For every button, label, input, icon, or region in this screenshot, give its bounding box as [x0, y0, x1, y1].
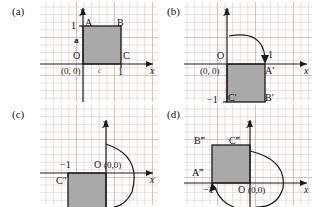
origin-coords-b: (0, 0)	[200, 67, 220, 76]
vertex-label-A-prime: A′	[265, 66, 274, 76]
panel-a: (a) y x A B C 1 1 O (0, 0) a	[0, 0, 159, 103]
panel-d: (d) y x B‴ C‴ A‴ −1	[159, 104, 318, 207]
panel-c-tag: (c)	[12, 108, 24, 120]
rotation-figure: (a) y x A B C 1 1 O (0, 0) a	[0, 0, 318, 207]
panel-b-graphics	[159, 0, 318, 103]
origin-label-c: O	[94, 160, 101, 170]
x-axis-label-c: x	[150, 175, 154, 185]
x-tick-label-1-a: 1	[118, 67, 123, 77]
vertex-label-A: A	[85, 18, 92, 28]
y-axis-label-c: y	[103, 118, 107, 128]
vertex-label-B: B	[117, 18, 124, 28]
x-axis-label-d: x	[304, 185, 308, 195]
y-axis-label-a: y	[80, 6, 84, 16]
rotation-arc-b	[229, 35, 265, 58]
rotation-arc-d-tail	[215, 188, 234, 207]
unit-square-a	[83, 26, 121, 64]
origin-label-d: O	[238, 185, 245, 195]
vertex-label-C: C	[123, 51, 130, 61]
origin-label-a: O	[73, 51, 80, 61]
y-axis-label-b: y	[224, 6, 228, 16]
vertex-label-B-prime: B′	[265, 93, 274, 103]
rotation-arc-c	[106, 144, 134, 207]
unit-square-d	[212, 145, 250, 183]
vector-label-c: c	[98, 67, 102, 75]
vector-label-a: a	[74, 36, 79, 45]
y-tick-label-neg1-b: −1	[207, 95, 218, 105]
vertex-label-C-double-prime: C″	[56, 176, 67, 186]
origin-coords-a: (0, 0)	[61, 67, 81, 76]
vertex-label-C-prime: C′	[228, 93, 237, 103]
panel-b: (b) y x O (0, 0) 1 −1 A′	[159, 0, 318, 103]
y-axis-label-d: y	[247, 118, 251, 128]
origin-coords-d: (0,0)	[248, 186, 265, 195]
y-tick-label-1-a: 1	[71, 21, 76, 31]
panel-c: (c) y x −1 O (0,0) C″	[0, 104, 159, 207]
x-tick-label-neg1-c: −1	[60, 160, 71, 170]
x-tick-label-neg1-d: −1	[203, 185, 214, 195]
x-axis-label-b: x	[304, 66, 308, 76]
vertex-label-B-triple-prime: B‴	[194, 136, 205, 146]
vertex-label-C-triple-prime: C‴	[229, 136, 240, 146]
x-axis-label-a: x	[150, 66, 154, 76]
origin-coords-c: (0,0)	[104, 161, 121, 170]
vertex-label-A-triple-prime: A‴	[192, 168, 203, 178]
origin-label-b: O	[217, 51, 224, 61]
x-tick-label-1-b: 1	[268, 50, 273, 60]
rotation-arc-d	[250, 151, 283, 207]
panel-d-tag: (d)	[167, 108, 180, 120]
unit-square-c	[68, 173, 106, 207]
panel-b-tag: (b)	[167, 5, 180, 17]
panel-a-tag: (a)	[12, 5, 24, 17]
